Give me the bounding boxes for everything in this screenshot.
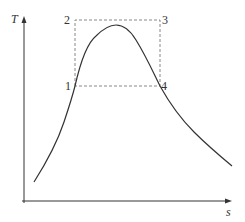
saturation-curve [34, 25, 232, 182]
point-3-label: 3 [162, 14, 168, 26]
x-axis-arrow-icon [225, 199, 232, 204]
ts-diagram: T s 2 3 1 4 [0, 0, 245, 222]
x-axis-label: s [226, 206, 231, 218]
y-axis-arrow-icon [22, 16, 27, 23]
y-axis-label: T [11, 13, 18, 25]
cycle-dashed-box [75, 20, 160, 86]
point-4-label: 4 [161, 80, 167, 92]
diagram-canvas [0, 0, 245, 222]
point-2-label: 2 [64, 14, 70, 26]
point-1-label: 1 [65, 80, 71, 92]
